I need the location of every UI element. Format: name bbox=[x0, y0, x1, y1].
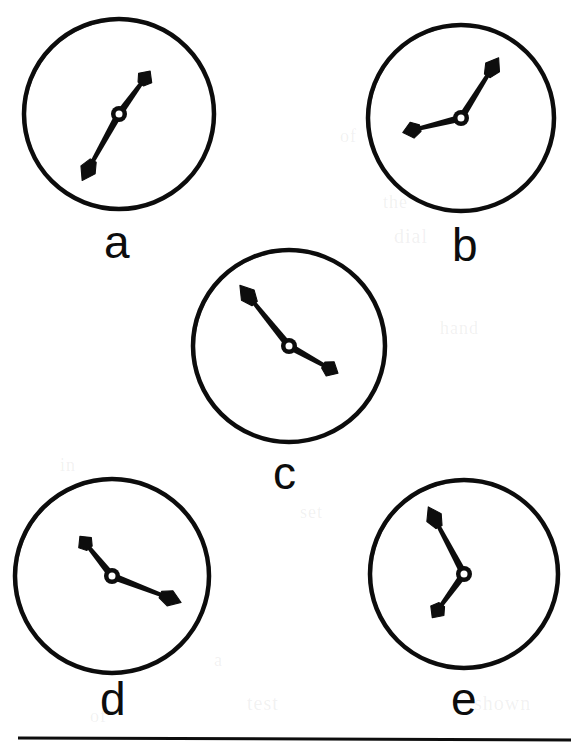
clock-b-hub-pinhole bbox=[458, 115, 465, 122]
clock-d-hub-pinhole bbox=[109, 573, 116, 580]
caption-rule-group bbox=[18, 738, 571, 740]
clock-a bbox=[24, 19, 214, 209]
clock-label-a: a bbox=[104, 219, 130, 265]
clock-label-e: e bbox=[451, 676, 477, 722]
clock-label-d: d bbox=[100, 676, 126, 722]
clock-e bbox=[370, 480, 558, 668]
clock-d bbox=[15, 479, 209, 673]
horizontal-rule bbox=[18, 738, 571, 740]
clock-e-hub-pinhole bbox=[461, 571, 468, 578]
clock-b bbox=[368, 25, 554, 211]
clock-label-c: c bbox=[273, 450, 296, 496]
clock-faces-figure: ofthedialinhandtimesetatestshownof abcde bbox=[0, 0, 581, 753]
clock-a-hub-pinhole bbox=[116, 111, 123, 118]
clock-label-b: b bbox=[452, 222, 478, 268]
clock-group bbox=[15, 19, 558, 673]
clock-c-hub-pinhole bbox=[286, 343, 293, 350]
figure-drawing-canvas bbox=[0, 0, 581, 753]
clock-c bbox=[193, 250, 385, 442]
